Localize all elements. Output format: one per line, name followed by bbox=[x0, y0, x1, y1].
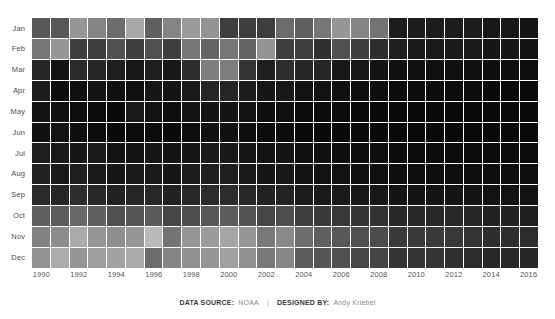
heatmap-cell[interactable] bbox=[51, 123, 69, 143]
heatmap-cell[interactable] bbox=[295, 206, 313, 226]
heatmap-cell[interactable] bbox=[88, 39, 106, 59]
heatmap-cell[interactable] bbox=[501, 185, 519, 205]
heatmap-cell[interactable] bbox=[483, 143, 501, 163]
heatmap-cell[interactable] bbox=[220, 185, 238, 205]
heatmap-cell[interactable] bbox=[145, 123, 163, 143]
heatmap-cell[interactable] bbox=[445, 185, 463, 205]
heatmap-cell[interactable] bbox=[520, 164, 538, 184]
heatmap-cell[interactable] bbox=[126, 185, 144, 205]
heatmap-cell[interactable] bbox=[145, 39, 163, 59]
heatmap-cell[interactable] bbox=[426, 164, 444, 184]
heatmap-cell[interactable] bbox=[295, 18, 313, 38]
heatmap-cell[interactable] bbox=[389, 18, 407, 38]
heatmap-cell[interactable] bbox=[201, 164, 219, 184]
heatmap-cell[interactable] bbox=[351, 123, 369, 143]
heatmap-cell[interactable] bbox=[351, 227, 369, 247]
heatmap-cell[interactable] bbox=[145, 185, 163, 205]
heatmap-cell[interactable] bbox=[408, 143, 426, 163]
heatmap-cell[interactable] bbox=[501, 39, 519, 59]
heatmap-cell[interactable] bbox=[182, 18, 200, 38]
heatmap-cell[interactable] bbox=[295, 185, 313, 205]
heatmap-cell[interactable] bbox=[88, 60, 106, 80]
heatmap-cell[interactable] bbox=[332, 60, 350, 80]
heatmap-cell[interactable] bbox=[257, 102, 275, 122]
heatmap-cell[interactable] bbox=[314, 39, 332, 59]
heatmap-cell[interactable] bbox=[32, 206, 50, 226]
heatmap-cell[interactable] bbox=[520, 102, 538, 122]
heatmap-cell[interactable] bbox=[464, 143, 482, 163]
heatmap-cell[interactable] bbox=[182, 123, 200, 143]
heatmap-cell[interactable] bbox=[145, 227, 163, 247]
heatmap-cell[interactable] bbox=[107, 60, 125, 80]
heatmap-cell[interactable] bbox=[332, 123, 350, 143]
heatmap-cell[interactable] bbox=[107, 81, 125, 101]
heatmap-cell[interactable] bbox=[51, 18, 69, 38]
heatmap-cell[interactable] bbox=[88, 206, 106, 226]
heatmap-cell[interactable] bbox=[314, 123, 332, 143]
heatmap-cell[interactable] bbox=[239, 164, 257, 184]
heatmap-cell[interactable] bbox=[257, 248, 275, 268]
heatmap-cell[interactable] bbox=[32, 102, 50, 122]
heatmap-cell[interactable] bbox=[445, 81, 463, 101]
heatmap-cell[interactable] bbox=[445, 18, 463, 38]
heatmap-cell[interactable] bbox=[295, 143, 313, 163]
heatmap-cell[interactable] bbox=[445, 206, 463, 226]
heatmap-cell[interactable] bbox=[182, 60, 200, 80]
heatmap-cell[interactable] bbox=[239, 248, 257, 268]
heatmap-cell[interactable] bbox=[70, 143, 88, 163]
heatmap-cell[interactable] bbox=[389, 248, 407, 268]
heatmap-cell[interactable] bbox=[520, 60, 538, 80]
heatmap-cell[interactable] bbox=[520, 123, 538, 143]
heatmap-cell[interactable] bbox=[408, 18, 426, 38]
heatmap-cell[interactable] bbox=[163, 143, 181, 163]
heatmap-cell[interactable] bbox=[257, 123, 275, 143]
heatmap-cell[interactable] bbox=[389, 123, 407, 143]
heatmap-cell[interactable] bbox=[408, 185, 426, 205]
heatmap-cell[interactable] bbox=[220, 248, 238, 268]
heatmap-cell[interactable] bbox=[163, 81, 181, 101]
heatmap-cell[interactable] bbox=[32, 248, 50, 268]
heatmap-cell[interactable] bbox=[370, 248, 388, 268]
heatmap-cell[interactable] bbox=[145, 102, 163, 122]
heatmap-cell[interactable] bbox=[483, 102, 501, 122]
heatmap-cell[interactable] bbox=[126, 39, 144, 59]
heatmap-cell[interactable] bbox=[126, 164, 144, 184]
heatmap-cell[interactable] bbox=[257, 143, 275, 163]
heatmap-cell[interactable] bbox=[332, 185, 350, 205]
heatmap-cell[interactable] bbox=[163, 39, 181, 59]
heatmap-cell[interactable] bbox=[464, 248, 482, 268]
heatmap-cell[interactable] bbox=[70, 185, 88, 205]
heatmap-cell[interactable] bbox=[239, 18, 257, 38]
heatmap-cell[interactable] bbox=[201, 102, 219, 122]
heatmap-cell[interactable] bbox=[51, 206, 69, 226]
heatmap-cell[interactable] bbox=[107, 102, 125, 122]
heatmap-cell[interactable] bbox=[426, 227, 444, 247]
heatmap-cell[interactable] bbox=[126, 102, 144, 122]
heatmap-cell[interactable] bbox=[464, 60, 482, 80]
heatmap-cell[interactable] bbox=[51, 164, 69, 184]
heatmap-cell[interactable] bbox=[220, 164, 238, 184]
heatmap-cell[interactable] bbox=[220, 39, 238, 59]
heatmap-cell[interactable] bbox=[257, 164, 275, 184]
heatmap-cell[interactable] bbox=[445, 60, 463, 80]
heatmap-cell[interactable] bbox=[70, 18, 88, 38]
heatmap-cell[interactable] bbox=[501, 102, 519, 122]
heatmap-cell[interactable] bbox=[351, 143, 369, 163]
heatmap-cell[interactable] bbox=[389, 227, 407, 247]
heatmap-cell[interactable] bbox=[464, 123, 482, 143]
heatmap-cell[interactable] bbox=[332, 227, 350, 247]
heatmap-cell[interactable] bbox=[70, 39, 88, 59]
heatmap-cell[interactable] bbox=[426, 206, 444, 226]
heatmap-cell[interactable] bbox=[501, 248, 519, 268]
heatmap-cell[interactable] bbox=[445, 164, 463, 184]
heatmap-cell[interactable] bbox=[370, 123, 388, 143]
heatmap-cell[interactable] bbox=[445, 123, 463, 143]
heatmap-cell[interactable] bbox=[520, 206, 538, 226]
heatmap-cell[interactable] bbox=[314, 164, 332, 184]
heatmap-cell[interactable] bbox=[32, 185, 50, 205]
heatmap-cell[interactable] bbox=[163, 206, 181, 226]
heatmap-cell[interactable] bbox=[182, 185, 200, 205]
heatmap-cell[interactable] bbox=[464, 206, 482, 226]
heatmap-cell[interactable] bbox=[239, 123, 257, 143]
heatmap-cell[interactable] bbox=[276, 18, 294, 38]
